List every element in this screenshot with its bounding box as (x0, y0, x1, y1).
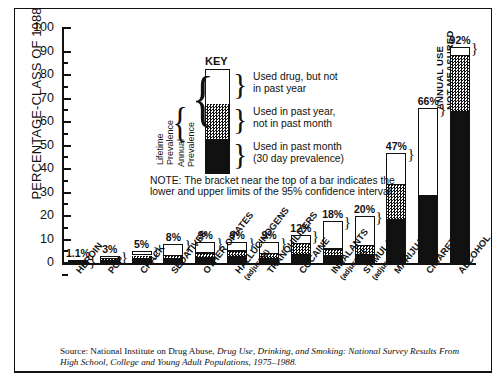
key-entry-past-month-line2: (30 day prevalence) (253, 153, 344, 164)
y-tick-label-80: 80 (20, 68, 54, 81)
bar-divider-annual (450, 55, 470, 57)
bar-divider-annual (227, 250, 247, 252)
lifetime-brace-label-l1: Lifetime (155, 133, 165, 165)
ci-bracket: } (471, 41, 478, 56)
key-brace-1: } (233, 69, 247, 99)
lifetime-brace: { (192, 67, 214, 129)
ci-bracket: } (344, 215, 351, 230)
key-entry-lifetime-line1: Used drug, but not (253, 71, 338, 82)
y-tick-label-90: 90 (20, 45, 54, 58)
annual-brace-label-l1: Annual (176, 139, 186, 167)
y-tick-label-20: 20 (20, 209, 54, 222)
key-entry-annual-line1: Used in past year, (253, 106, 335, 117)
bar-divider-month (450, 111, 470, 113)
key-entry-annual: Used in past year, not in past month (253, 106, 335, 129)
y-tick-label-100: 100 (20, 21, 54, 34)
y-tick-label-70: 70 (20, 92, 54, 105)
y-tick-label-0: 0 (20, 256, 54, 269)
key-note: NOTE: The bracket near the top of a bar … (150, 175, 400, 198)
bar-segment-lifetime (418, 108, 438, 195)
source-caption: Source: National Institute on Drug Abuse… (60, 346, 460, 368)
key-entry-annual-line2: not in past month (253, 118, 332, 129)
y-tick-label-40: 40 (20, 162, 54, 175)
lifetime-brace-label: Lifetime Prevalence (156, 120, 175, 165)
bar-segment-past-year (450, 56, 470, 112)
source-prefix: Source: National Institute on Drug Abuse… (60, 346, 217, 356)
key-entry-past-month-line1: Used in past month (253, 141, 342, 152)
key-seg-past-month (206, 139, 229, 173)
x-axis-category-labels: HEROINPCPCRACKSEDATIVESOTHER OPIATESHALL… (62, 266, 476, 338)
source-rule (14, 371, 492, 372)
ci-bracket: } (376, 210, 383, 225)
key-brace-3: } (233, 139, 247, 169)
key-legend: KEY } } } Used drug, but not in past yea… (150, 57, 380, 187)
ci-bracket: } (407, 147, 414, 162)
lifetime-brace-label-l2: Prevalence (165, 120, 175, 165)
key-entry-lifetime-line2: in past year (253, 83, 306, 94)
y-tick-label-10: 10 (20, 233, 54, 246)
bar-divider-month (386, 219, 406, 221)
annual-brace-label-l2: Prevalence (186, 122, 196, 167)
y-tick-label-50: 50 (20, 139, 54, 152)
key-brace-2: } (233, 104, 247, 134)
y-tick-label-60: 60 (20, 115, 54, 128)
y-tick-label-30: 30 (20, 186, 54, 199)
key-entry-lifetime: Used drug, but not in past year (253, 71, 338, 94)
key-entry-past-month: Used in past month (30 day prevalence) (253, 141, 344, 164)
annual-brace-label: Annual Prevalence (177, 122, 196, 167)
page-top-artifact (200, 0, 440, 7)
figure-page: PERCENTAGE-CLASS OF 1988 010203040506070… (0, 0, 504, 383)
